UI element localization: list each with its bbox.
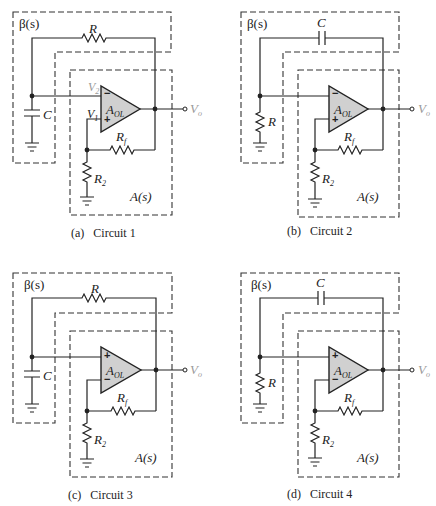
circuit-4: β(s) C R + − AOL Rf R2 Vo A(s) (d) Circu… [218,253,436,506]
circuit-3: β(s) R C + − AOL Rf R2 Vo A(s) (c) Circu… [0,253,218,506]
vo-label: Vo [418,102,430,118]
caption: (a) Circuit 1 [71,226,136,241]
opamp-gain-label: AOL [334,103,352,119]
r2-resistor [311,150,319,199]
ground-icon [80,459,94,467]
noninverting-sign: + [104,350,110,361]
r2-label: R2 [322,433,334,449]
a-label: A(s) [135,451,157,464]
beta-box [241,273,399,423]
noninverting-sign: + [332,350,338,361]
inverting-sign: − [332,88,338,99]
shunt-resistor-r [256,357,264,404]
feedback-capacitor-c [260,291,383,411]
rf-label: Rf [344,391,354,407]
v2-label: V2 [88,81,99,96]
a-label: A(s) [130,190,152,203]
a-label: A(s) [357,190,379,203]
output-terminal [183,368,187,372]
r2-label: R2 [94,172,106,188]
r2-resistor [83,411,91,459]
beta-label: β(s) [24,278,44,291]
circuit-2: β(s) C R − + AOL Rf R2 Vo A(s) (b) Circu… [218,0,436,253]
shunt-element-label: R [268,115,276,128]
rf-label: Rf [116,130,126,146]
shunt-element-label: C [43,369,52,382]
ground-icon [25,404,39,412]
circuit-1-schematic [0,0,218,253]
a-label: A(s) [357,451,379,464]
vo-label: Vo [190,363,202,379]
r2-label: R2 [94,433,106,449]
beta-label: β(s) [19,17,39,30]
ground-icon [25,143,39,151]
shunt-capacitor-c [24,96,40,143]
v1-label: V1 [87,108,98,123]
output-node [154,368,159,373]
feedback-element-label: C [317,16,326,29]
rf-label: Rf [344,130,354,146]
shunt-resistor-r [256,96,264,143]
inverting-sign: − [104,88,110,99]
opamp-gain-label: AOL [334,364,352,380]
output-node [381,107,386,112]
beta-label: β(s) [251,278,271,291]
circuit-1: β(s) R C V2 V1 − + AOL Rf R2 Vo A(s) (a)… [0,0,218,253]
ground-icon [308,199,322,207]
feedback-capacitor-c [260,31,383,150]
ground-icon [308,458,322,466]
output-terminal [410,368,414,372]
vo-label: Vo [190,102,202,118]
oscillator-circuits-figure: β(s) R C V2 V1 − + AOL Rf R2 Vo A(s) (a)… [0,0,436,506]
opamp-gain-label: AOL [106,103,124,119]
caption: (b) Circuit 2 [287,224,352,239]
rf-label: Rf [117,391,127,407]
output-terminal [410,107,414,111]
ground-icon [80,197,94,205]
opamp-gain-label: AOL [106,364,124,380]
r2-label: R2 [322,172,334,188]
vo-label: Vo [418,363,430,379]
ground-icon [253,143,267,151]
output-node [381,368,386,373]
shunt-capacitor-c [24,357,40,404]
feedback-element-label: R [89,22,97,35]
feedback-element-label: C [316,276,325,289]
beta-label: β(s) [247,17,267,30]
output-node [153,107,158,112]
shunt-element-label: R [268,376,276,389]
feedback-element-label: R [91,282,99,295]
r2-resistor [311,411,319,458]
ground-icon [253,404,267,412]
r2-resistor [83,150,91,197]
caption: (d) Circuit 4 [287,487,352,502]
shunt-element-label: C [43,108,52,121]
beta-box [241,12,399,163]
caption: (c) Circuit 3 [68,488,133,503]
circuit-2-schematic [218,0,436,253]
feedback-resistor-r [32,294,156,411]
output-terminal [183,107,187,111]
